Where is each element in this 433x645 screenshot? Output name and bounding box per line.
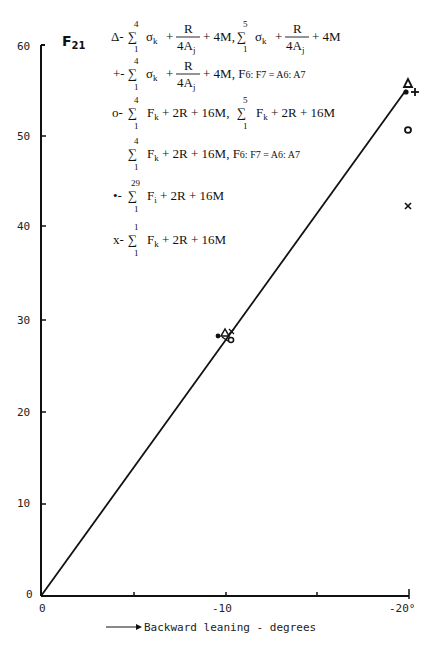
y-tick-label-10: 10 [17, 497, 30, 510]
svg-text:Fk + 2R + 16M, F6: F7 = A6: A7: Fk + 2R + 16M, F6: F7 = A6: A7 [147, 146, 300, 163]
svg-text:1: 1 [134, 204, 139, 214]
triangle-marker-icon [404, 79, 412, 87]
legend-row-cross: x- 1 ∑ 1 Fk + 2R + 16M [113, 222, 227, 258]
svg-text:4: 4 [134, 95, 139, 105]
svg-text:•-: •- [113, 188, 122, 203]
legend-row-dot: •- 29 ∑ 1 Fi + 2R + 16M [113, 178, 225, 214]
svg-text:Δ-: Δ- [111, 29, 124, 44]
svg-text:∑: ∑ [237, 105, 246, 120]
svg-text:4: 4 [134, 19, 139, 29]
x-title-arrowhead-icon [136, 624, 142, 630]
svg-text:1: 1 [243, 44, 248, 54]
legend-row-plus: +- 4 ∑ 1 σk + R 4Aj + 4M, F6: F7 = A6: A… [113, 56, 305, 92]
svg-text:∑: ∑ [128, 146, 137, 161]
svg-text:4: 4 [134, 136, 139, 146]
svg-text:29: 29 [131, 178, 141, 188]
svg-text:4Aj: 4Aj [177, 38, 195, 55]
data-points-minus20 [403, 79, 419, 209]
svg-text:+: + [166, 66, 173, 81]
svg-text:1: 1 [134, 248, 139, 258]
svg-text:4Aj: 4Aj [286, 38, 304, 55]
svg-text:Fk + 2R + 16M: Fk + 2R + 16M [147, 232, 227, 249]
dot-marker-icon [216, 334, 221, 339]
svg-text:o-: o- [112, 105, 123, 120]
svg-text:4: 4 [134, 56, 139, 66]
plus-marker-icon [411, 88, 419, 96]
svg-text:σk: σk [255, 29, 267, 46]
svg-text:+: + [166, 29, 173, 44]
svg-text:+ 4M, F6: F7 = A6: A7: + 4M, F6: F7 = A6: A7 [203, 66, 305, 81]
legend-row-triangle: Δ- 4 ∑ 1 σk + R 4Aj + 4M, 5 ∑ 1 σk + R 4… [111, 19, 341, 55]
y-tick-label-50: 50 [17, 130, 30, 143]
reference-line [41, 90, 406, 596]
chart-canvas: 0 10 20 30 40 50 60 0 -10 -20° F21 Backw… [0, 0, 433, 645]
svg-text:σk: σk [146, 29, 158, 46]
svg-text:+: + [275, 29, 282, 44]
svg-text:4Aj: 4Aj [177, 75, 195, 92]
svg-text:1: 1 [243, 121, 248, 131]
x-tick-label-20: -20° [389, 602, 416, 615]
svg-text:R: R [184, 58, 193, 73]
legend-row-circle-variant: 4 ∑ 1 Fk + 2R + 16M, F6: F7 = A6: A7 [128, 136, 300, 172]
svg-text:+ 4M: + 4M [312, 29, 341, 44]
svg-text:R: R [184, 21, 193, 36]
legend: Δ- 4 ∑ 1 σk + R 4Aj + 4M, 5 ∑ 1 σk + R 4… [111, 19, 341, 258]
x-tick-label-0: 0 [39, 602, 46, 615]
svg-text:+ 4M,: + 4M, [203, 29, 235, 44]
svg-text:5: 5 [243, 19, 248, 29]
y-tick-label-40: 40 [17, 220, 30, 233]
y-tick-label-20: 20 [17, 406, 30, 419]
x-tick-label-10: -10 [212, 602, 232, 615]
circle-marker-icon [228, 338, 233, 343]
svg-text:∑: ∑ [237, 29, 246, 44]
svg-text:∑: ∑ [128, 232, 137, 247]
svg-text:1: 1 [134, 121, 139, 131]
svg-text:+-: +- [113, 66, 125, 81]
svg-text:1: 1 [134, 162, 139, 172]
x-axis-title: Backward leaning - degrees [144, 621, 316, 634]
svg-text:∑: ∑ [128, 66, 137, 81]
svg-text:Fi + 2R + 16M: Fi + 2R + 16M [147, 188, 225, 205]
svg-text:x-: x- [113, 232, 124, 247]
cross-marker-icon [405, 203, 411, 209]
circle-marker-icon [405, 127, 411, 133]
svg-text:1: 1 [134, 222, 139, 232]
legend-row-circle: o- 4 ∑ 1 Fk + 2R + 16M, 5 ∑ 1 Fk + 2R + … [112, 95, 336, 131]
svg-text:∑: ∑ [128, 188, 137, 203]
svg-text:1: 1 [134, 44, 139, 54]
svg-text:σk: σk [146, 66, 158, 83]
y-tick-label-60: 60 [17, 40, 30, 53]
y-axis-title: F21 [62, 33, 86, 51]
y-tick-label-30: 30 [17, 314, 30, 327]
y-tick-label-0: 0 [26, 588, 33, 601]
triangle-marker-icon [221, 329, 229, 336]
svg-text:∑: ∑ [128, 29, 137, 44]
svg-text:R: R [293, 21, 302, 36]
svg-text:Fk + 2R + 16M,: Fk + 2R + 16M, [147, 105, 229, 122]
svg-text:∑: ∑ [128, 105, 137, 120]
svg-text:5: 5 [243, 95, 248, 105]
dot-marker-icon [403, 89, 408, 94]
x-ticks [134, 589, 409, 599]
svg-text:1: 1 [134, 82, 139, 92]
svg-text:Fk + 2R + 16M: Fk + 2R + 16M [256, 105, 336, 122]
